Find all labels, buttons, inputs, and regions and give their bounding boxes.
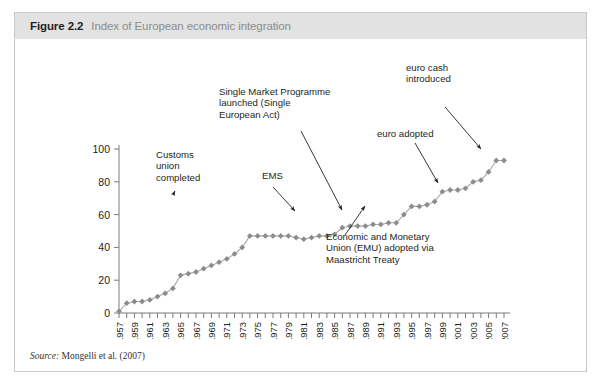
data-point-marker: [216, 259, 222, 265]
annotation-arrow: [415, 143, 438, 183]
y-tick-label: 100: [92, 143, 110, 155]
data-point-marker: [162, 290, 168, 296]
data-point-marker: [209, 263, 215, 269]
data-point-marker: [224, 256, 230, 262]
data-point-marker: [378, 222, 384, 228]
x-tick-label: 1997: [422, 322, 433, 339]
data-point-marker: [132, 299, 138, 305]
x-tick-label: 1975: [252, 322, 263, 339]
x-tick-label: 1983: [314, 322, 325, 339]
source-note: Source: Mongelli et al. (2007): [30, 351, 145, 361]
data-point-marker: [355, 223, 361, 229]
data-point-marker: [416, 204, 422, 210]
x-tick-label: 1973: [237, 322, 248, 339]
x-tick-label: 1987: [345, 322, 356, 339]
annotation-arrow: [173, 191, 175, 195]
data-point-marker: [193, 269, 199, 275]
data-point-marker: [293, 235, 299, 241]
annotation-arrow: [445, 107, 481, 149]
x-tick-label: 1977: [268, 322, 279, 339]
data-point-marker: [370, 222, 376, 228]
data-point-marker: [139, 299, 145, 305]
data-point-marker: [255, 233, 261, 239]
annotation-line: Union (EMU) adopted via: [326, 242, 434, 253]
x-tick-label: 1995: [406, 322, 417, 339]
annotation-line: EMS: [262, 170, 283, 181]
x-tick-label: 1969: [206, 322, 217, 339]
data-point-marker: [147, 297, 153, 303]
x-tick-label: 1971: [221, 322, 232, 339]
annotation-line: launched (Single: [219, 97, 290, 108]
figure-number: Figure 2.2: [30, 20, 83, 32]
source-text: Mongelli et al. (2007): [59, 351, 145, 361]
y-tick-label: 40: [98, 241, 110, 253]
annotation-line: euro adopted: [377, 128, 434, 139]
data-point-marker: [309, 235, 315, 241]
data-point-marker: [501, 158, 507, 164]
annotation-ems: EMS: [262, 170, 295, 211]
annotation-line: completed: [156, 172, 200, 183]
data-point-marker: [286, 233, 292, 239]
data-point-marker: [185, 271, 191, 277]
figure-card: Figure 2.2 Index of European economic in…: [14, 12, 587, 372]
annotation-line: Customs: [156, 149, 194, 160]
x-tick-label: 2005: [483, 322, 494, 339]
x-tick-label: 1993: [391, 322, 402, 339]
annotation-line: Economic and Monetary: [326, 231, 430, 242]
x-tick-label: 2007: [499, 322, 510, 339]
x-tick-label: 1991: [375, 322, 386, 339]
chart-plot-area: 0204060801001957195919611963196519671969…: [15, 39, 586, 373]
y-tick-label: 80: [98, 176, 110, 188]
annotation-single-market: Single Market Programmelaunched (SingleE…: [219, 86, 342, 210]
data-point-marker: [316, 233, 322, 239]
y-tick-label: 20: [98, 274, 110, 286]
x-tick-label: 1961: [144, 322, 155, 339]
y-tick-label: 0: [104, 307, 110, 319]
x-tick-label: 1959: [129, 322, 140, 339]
data-point-marker: [424, 202, 430, 208]
annotation-line: introduced: [406, 73, 451, 84]
x-tick-label: 1965: [175, 322, 186, 339]
x-tick-label: 1963: [160, 322, 171, 339]
data-point-marker: [178, 272, 184, 278]
x-tick-label: 1957: [114, 322, 125, 339]
figure-header: Figure 2.2 Index of European economic in…: [15, 13, 586, 39]
annotation-arrow: [301, 131, 342, 210]
figure-caption: Index of European economic integration: [91, 20, 291, 32]
x-tick-label: 1985: [329, 322, 340, 339]
annotation-arrow: [273, 187, 295, 211]
x-tick-label: 1989: [360, 322, 371, 339]
data-point-marker: [170, 286, 176, 292]
data-point-marker: [447, 187, 453, 193]
data-point-marker: [455, 187, 461, 193]
annotation-emu-maastricht: Economic and MonetaryUnion (EMU) adopted…: [326, 206, 434, 265]
annotation-line: European Act): [219, 109, 280, 120]
annotation-line: Single Market Programme: [219, 86, 330, 97]
data-point-marker: [386, 220, 392, 226]
x-tick-label: 1979: [283, 322, 294, 339]
x-tick-label: 2001: [452, 322, 463, 339]
data-point-marker: [363, 223, 369, 229]
data-point-marker: [493, 158, 499, 164]
annotation-euro-adopted: euro adopted: [377, 128, 438, 183]
data-point-marker: [301, 236, 307, 242]
y-tick-label: 60: [98, 209, 110, 221]
data-point-marker: [201, 266, 207, 272]
annotation-line: union: [156, 160, 179, 171]
annotation-line: Maastricht Treaty: [326, 254, 400, 265]
line-chart: 0204060801001957195919611963196519671969…: [15, 39, 588, 339]
data-point-marker: [155, 294, 161, 300]
x-tick-label: 1967: [191, 322, 202, 339]
source-label: Source:: [30, 351, 59, 361]
x-tick-label: 2003: [468, 322, 479, 339]
data-point-marker: [278, 233, 284, 239]
annotation-customs-union: Customsunioncompleted: [156, 149, 200, 195]
data-point-marker: [247, 233, 253, 239]
data-point-marker: [270, 233, 276, 239]
x-tick-label: 1981: [298, 322, 309, 339]
annotation-line: euro cash: [406, 62, 448, 73]
x-tick-label: 1999: [437, 322, 448, 339]
data-point-marker: [262, 233, 268, 239]
